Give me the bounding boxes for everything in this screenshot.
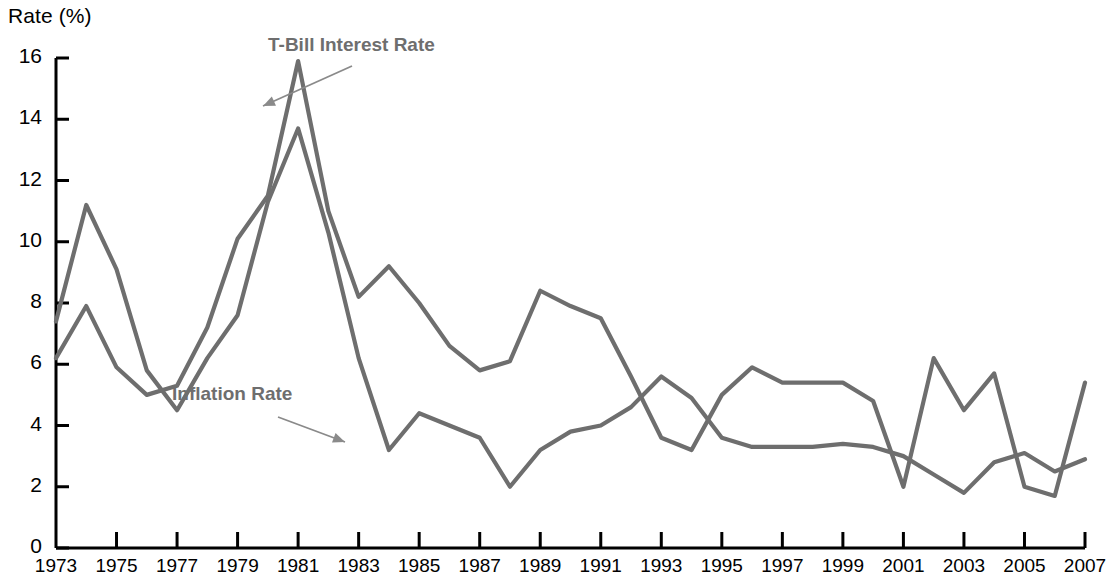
x-axis-tick-label: 1983 (329, 555, 389, 577)
x-axis-tick-label: 1987 (450, 555, 510, 577)
series-line-inflation-rate (56, 128, 1085, 492)
x-axis-tick-label: 1973 (26, 555, 86, 577)
x-axis-tick-label: 1991 (571, 555, 631, 577)
x-axis-tick-label: 2001 (873, 555, 933, 577)
x-axis-tick-label: 2007 (1055, 555, 1110, 577)
y-axis-tick-label: 14 (2, 105, 42, 129)
y-axis-tick-label: 10 (2, 228, 42, 252)
y-axis-tick-label: 12 (2, 167, 42, 191)
y-axis-tick-label: 2 (2, 473, 42, 497)
arrowhead-icon (332, 433, 345, 442)
y-axis-tick-label: 16 (2, 44, 42, 68)
x-axis-tick-label: 1999 (813, 555, 873, 577)
label-inflation-rate: Inflation Rate (172, 383, 292, 405)
y-axis-tick-label: 8 (2, 289, 42, 313)
x-axis-ticks (117, 532, 1085, 548)
x-axis-tick-label: 1985 (389, 555, 449, 577)
x-axis-tick-label: 1989 (510, 555, 570, 577)
y-axis-tick-label: 6 (2, 350, 42, 374)
x-axis-tick-label: 1979 (208, 555, 268, 577)
x-axis-tick-label: 1975 (87, 555, 147, 577)
x-axis-tick-label: 1995 (692, 555, 752, 577)
x-axis-tick-label: 1977 (147, 555, 207, 577)
label-tbill-interest-rate: T-Bill Interest Rate (268, 34, 435, 56)
y-axis-tick-label: 4 (2, 412, 42, 436)
x-axis-tick-label: 1997 (752, 555, 812, 577)
x-axis-tick-label: 1993 (631, 555, 691, 577)
x-axis-tick-label: 2005 (994, 555, 1054, 577)
x-axis-tick-label: 2003 (934, 555, 994, 577)
x-axis-tick-label: 1981 (268, 555, 328, 577)
